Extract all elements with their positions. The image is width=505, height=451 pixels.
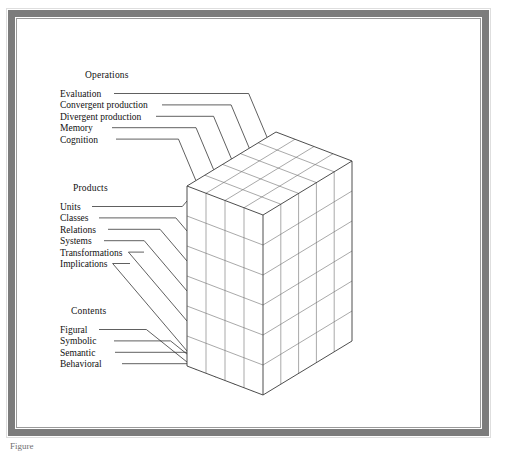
operations-item-evaluation: Evaluation — [60, 89, 148, 100]
contents-item-figural: Figural — [60, 325, 106, 336]
operations-item-cognition: Cognition — [60, 135, 148, 146]
contents-item-behavioral: Behavioral — [60, 359, 106, 370]
operations-heading: Operations — [85, 70, 148, 80]
figure-caption: Figure — [10, 441, 490, 451]
contents-item-symbolic: Symbolic — [60, 336, 106, 347]
products-item-units: Units — [60, 202, 122, 213]
operations-label-group: Operations Evaluation Convergent product… — [60, 70, 148, 146]
products-item-relations: Relations — [60, 225, 122, 236]
figure-page: Operations Evaluation Convergent product… — [0, 0, 505, 451]
contents-item-semantic: Semantic — [60, 348, 106, 359]
contents-heading: Contents — [71, 306, 106, 316]
products-item-implications: Implications — [60, 259, 122, 270]
products-label-group: Products Units Classes Relations Systems… — [60, 183, 122, 270]
products-item-transformations: Transformations — [60, 248, 122, 259]
products-item-systems: Systems — [60, 236, 122, 247]
operations-item-divergent-production: Divergent production — [60, 112, 148, 123]
products-heading: Products — [73, 183, 122, 193]
products-item-classes: Classes — [60, 213, 122, 224]
operations-item-memory: Memory — [60, 123, 148, 134]
contents-label-group: Contents Figural Symbolic Semantic Behav… — [60, 306, 106, 371]
operations-item-convergent-production: Convergent production — [60, 100, 148, 111]
